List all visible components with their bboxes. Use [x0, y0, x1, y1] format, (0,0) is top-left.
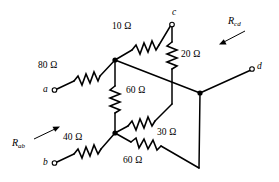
wire-n1-to-r10 — [115, 50, 132, 60]
resistor-label-60-lower: 60 Ω — [123, 156, 142, 166]
resistor-60a-zigzag — [110, 86, 120, 113]
wire-right-node-to-d — [200, 70, 251, 93]
rcd-arrow-head — [219, 39, 227, 44]
terminal-label-c: c — [172, 8, 176, 18]
junction-dot-n2 — [112, 130, 117, 135]
resistor-30-zigzag — [128, 117, 155, 130]
wire-right-node-down — [199, 93, 200, 168]
resistor-10-zigzag — [132, 41, 159, 54]
resistor-20-ohm — [167, 27, 177, 104]
resistor-20-zigzag — [167, 42, 177, 69]
annotation-label-rcd: Rcd — [228, 16, 241, 26]
resistor-80-zigzag — [74, 72, 100, 85]
rab-arrow — [34, 127, 60, 140]
rab-arrow-shaft — [34, 128, 57, 139]
junction-dot-right — [197, 90, 202, 95]
wire-r10-to-c — [159, 25, 171, 45]
resistor-label-20: 20 Ω — [181, 50, 200, 60]
resistor-label-10: 10 Ω — [112, 22, 131, 32]
resistor-label-80: 80 Ω — [38, 61, 57, 71]
resistor-label-30: 30 Ω — [157, 128, 176, 138]
wire-a-to-r80 — [57, 81, 74, 89]
resistor-40-zigzag — [74, 145, 101, 158]
resistor-label-40: 40 Ω — [63, 133, 82, 143]
annotation-rcd-sub: cd — [234, 20, 241, 28]
wire-r80-to-n1 — [100, 60, 115, 76]
resistor-80-ohm — [57, 60, 115, 89]
terminal-label-d: d — [257, 62, 262, 72]
wire-r30-to-n3 — [155, 104, 172, 121]
terminal-c-circle — [170, 22, 175, 27]
wire-n2-to-r60b — [115, 133, 131, 142]
rcd-arrow-shaft — [222, 31, 245, 43]
wire-r60b-to-corner — [161, 146, 199, 168]
annotation-rab-sub: ab — [18, 142, 25, 150]
terminal-label-b: b — [43, 158, 48, 168]
wire-r40-to-n2 — [101, 133, 115, 149]
terminal-b-circle — [52, 161, 57, 166]
terminal-label-a: a — [43, 85, 48, 95]
wire-b-to-r40 — [57, 154, 74, 162]
resistor-60b-zigzag — [131, 138, 161, 150]
terminal-d-circle — [250, 67, 255, 72]
terminal-a-circle — [52, 88, 57, 93]
resistor-label-60-vertical: 60 Ω — [126, 86, 145, 96]
circuit-diagram-figure: 80 Ω 10 Ω 20 Ω 60 Ω 30 Ω 40 Ω 60 Ω a b c… — [0, 0, 279, 182]
junction-dot-n1 — [112, 57, 117, 62]
resistor-60-ohm-vertical — [110, 60, 120, 133]
annotation-label-rab: Rab — [12, 138, 25, 148]
rcd-arrow — [219, 31, 245, 45]
